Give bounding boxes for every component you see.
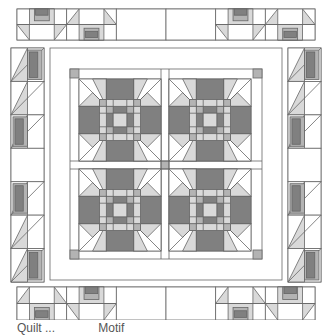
- unit-dark: [85, 287, 97, 294]
- column-dark: [292, 119, 300, 144]
- corner-chip: [100, 224, 107, 231]
- arm-dark: [196, 231, 223, 252]
- chip: [224, 196, 231, 203]
- chip: [106, 106, 113, 113]
- chip: [127, 127, 134, 134]
- bottom-border-strip: [17, 287, 315, 320]
- chip: [134, 106, 141, 113]
- cornerstone: [70, 69, 79, 78]
- star-block: [79, 169, 161, 251]
- arm-dark: [141, 106, 162, 133]
- unit-dark: [234, 9, 246, 15]
- inner-dark: [127, 113, 134, 127]
- chip: [224, 106, 231, 113]
- inner-dark: [106, 113, 113, 127]
- arm-dark: [231, 196, 252, 223]
- corner-chip: [224, 190, 231, 197]
- unit-dark: [36, 9, 48, 15]
- arm-dark: [169, 106, 190, 133]
- column-dark: [15, 186, 23, 211]
- chip: [127, 196, 134, 203]
- chip: [134, 127, 141, 134]
- inner-dark: [127, 203, 134, 217]
- inner-dark: [113, 217, 127, 224]
- arm-dark: [196, 79, 223, 100]
- corner-chip: [190, 100, 197, 107]
- corner-chip: [134, 100, 141, 107]
- arm-dark: [79, 106, 100, 133]
- cornerstone: [253, 69, 262, 78]
- plain-unit: [116, 9, 166, 40]
- center-square: [113, 203, 127, 217]
- center-cornerstone: [161, 161, 169, 169]
- corner-chip: [190, 224, 197, 231]
- chip: [106, 224, 113, 231]
- inner-dark: [106, 203, 113, 217]
- chip: [100, 127, 107, 134]
- corner-chip: [100, 134, 107, 141]
- chip: [106, 127, 113, 134]
- plain-unit: [166, 9, 216, 40]
- chip: [217, 224, 224, 231]
- chip: [106, 196, 113, 203]
- column-dark: [307, 52, 315, 77]
- inner-dark: [203, 196, 217, 203]
- arm-dark: [196, 141, 223, 162]
- chip: [100, 196, 107, 203]
- chip: [217, 196, 224, 203]
- chip: [217, 100, 224, 107]
- arm-dark: [106, 79, 133, 100]
- chip: [100, 217, 107, 224]
- chip: [196, 196, 203, 203]
- inner-dark: [203, 127, 217, 134]
- chip: [196, 190, 203, 197]
- plain-unit: [166, 287, 216, 320]
- arm-dark: [106, 169, 133, 190]
- top-border-strip: [17, 9, 315, 40]
- inner-dark: [217, 113, 224, 127]
- chip: [217, 127, 224, 134]
- chip: [190, 217, 197, 224]
- inner-dark: [113, 127, 127, 134]
- inner-dark: [113, 196, 127, 203]
- corner-chip: [224, 134, 231, 141]
- arm-dark: [231, 106, 252, 133]
- inner-dark: [196, 113, 203, 127]
- chip: [106, 217, 113, 224]
- chip: [196, 106, 203, 113]
- corner-chip: [134, 224, 141, 231]
- chip: [217, 106, 224, 113]
- chip: [127, 224, 134, 231]
- corner-chip: [224, 100, 231, 107]
- chip: [100, 106, 107, 113]
- chip: [127, 190, 134, 197]
- inner-dark: [113, 106, 127, 113]
- arm-dark: [106, 231, 133, 252]
- column-dark: [15, 119, 23, 144]
- arm-dark: [141, 196, 162, 223]
- center-square: [203, 203, 217, 217]
- plain-unit: [116, 287, 166, 320]
- column-dark: [292, 186, 300, 211]
- left-border-column: [11, 48, 44, 282]
- chip: [127, 100, 134, 107]
- arm-dark: [196, 169, 223, 190]
- chip: [190, 196, 197, 203]
- caption: Quilt ... Motif: [17, 322, 164, 334]
- chip: [106, 100, 113, 107]
- unit-dark: [284, 287, 296, 294]
- corner-chip: [190, 190, 197, 197]
- inner-dark: [196, 203, 203, 217]
- corner-chip: [100, 100, 107, 107]
- unit-dark: [85, 31, 97, 37]
- inner-dark: [203, 106, 217, 113]
- star-block: [169, 169, 251, 251]
- corner-chip: [134, 190, 141, 197]
- unit-dark: [284, 31, 296, 37]
- chip: [224, 217, 231, 224]
- chip: [127, 134, 134, 141]
- inner-dark: [203, 217, 217, 224]
- chip: [134, 196, 141, 203]
- column-segment: [11, 148, 44, 181]
- caption-left: Quilt ...: [17, 321, 55, 335]
